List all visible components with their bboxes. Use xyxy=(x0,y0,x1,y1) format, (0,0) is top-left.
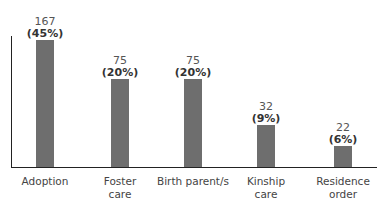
bar-residence-order xyxy=(334,146,352,167)
category-label-line2: care xyxy=(255,188,278,200)
bar-percentage: (20%) xyxy=(163,67,223,79)
category-label-line2: order xyxy=(329,188,357,200)
category-label: Kinship care xyxy=(226,175,306,201)
bar-foster-care xyxy=(111,79,129,167)
bar-value-label: 167 (45%) xyxy=(15,16,75,40)
category-label-line1: Kinship xyxy=(247,175,285,187)
bar-value-label: 75 (20%) xyxy=(163,55,223,79)
bar-value-label: 32 (9%) xyxy=(236,101,296,125)
bar-percentage: (6%) xyxy=(313,134,373,146)
bar-adoption xyxy=(36,40,54,167)
y-axis xyxy=(11,36,12,168)
category-label-line1: Birth parent/s xyxy=(157,175,229,187)
category-label: Residence order xyxy=(303,175,383,201)
bar-percentage: (20%) xyxy=(90,67,150,79)
bar-kinship-care xyxy=(257,125,275,167)
category-label: Adoption xyxy=(5,175,85,188)
bar-birth-parents xyxy=(184,79,202,167)
category-label: Birth parent/s xyxy=(153,175,233,188)
category-label: Foster care xyxy=(80,175,160,201)
category-label-line1: Residence xyxy=(316,175,370,187)
category-label-line2: care xyxy=(109,188,132,200)
bar-percentage: (45%) xyxy=(15,28,75,40)
category-label-line1: Foster xyxy=(104,175,136,187)
bar-value-label: 75 (20%) xyxy=(90,55,150,79)
x-axis xyxy=(11,167,377,168)
bar-percentage: (9%) xyxy=(236,113,296,125)
category-label-line1: Adoption xyxy=(22,175,69,187)
bar-value-label: 22 (6%) xyxy=(313,122,373,146)
